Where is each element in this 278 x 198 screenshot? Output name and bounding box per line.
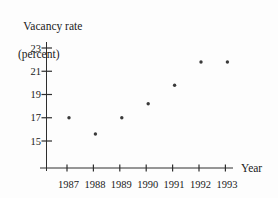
y-tick-label: 19 [31,89,42,100]
y-tick-label: 23 [31,43,42,54]
data-point-1993 [226,60,229,63]
data-point-1989 [120,116,123,119]
x-axis-label: Year [241,162,262,174]
y-tick-label: 17 [31,112,42,123]
x-tick-label: 1990 [137,179,158,190]
x-tick-label: 1987 [58,179,79,190]
x-tick-label: 1993 [216,179,237,190]
data-point-1987 [67,116,70,119]
data-point-1988 [94,132,97,135]
x-tick-label: 1992 [190,179,211,190]
x-tick-label: 1991 [164,179,185,190]
y-tick-label: 21 [31,66,42,77]
plot-area: 15171921231987198819891990199119921993 [0,0,278,198]
y-tick-label: 15 [31,136,42,147]
x-tick-label: 1988 [84,179,105,190]
data-point-1991 [173,84,176,87]
data-point-1990 [147,102,150,105]
data-point-1992 [199,60,202,63]
x-tick-label: 1989 [111,179,132,190]
vacancy-rate-scatter-chart: Vacancy rate (percent) 15171921231987198… [0,0,278,198]
